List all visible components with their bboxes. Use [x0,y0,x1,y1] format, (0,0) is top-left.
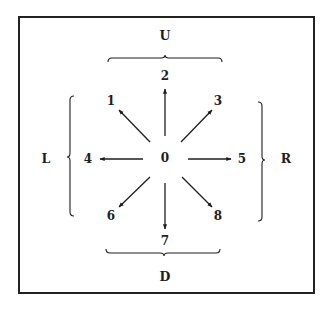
brace-right [258,102,265,221]
node-label-7: 7 [161,234,169,248]
node-label-3: 3 [214,94,222,108]
arrow-icon-up-left [119,110,150,142]
direction-label-right: R [281,151,292,166]
node-label-1: 1 [107,94,115,108]
arrow-icon-down-right [182,177,212,207]
brace-bottom [106,249,220,256]
node-label-5: 5 [238,152,246,166]
node-label-2: 2 [161,69,169,83]
direction-label-up: U [160,28,171,43]
node-label-4: 4 [84,152,92,166]
direction-label-down: D [160,269,171,284]
node-label-6: 6 [107,209,115,223]
direction-label-left: L [42,151,51,166]
direction-diagram: U D L R 0 1 2 3 4 5 6 7 8 [0,0,331,310]
center-node-label: 0 [161,151,169,165]
node-label-8: 8 [214,209,222,223]
brace-left [67,96,74,216]
arrow-icon-down-left [119,177,150,207]
brace-top [108,55,222,62]
arrow-icon-up-right [181,110,212,142]
